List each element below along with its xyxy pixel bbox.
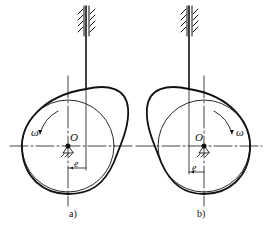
cam-diagram (0, 0, 268, 228)
center-label-b: O (195, 131, 203, 143)
omega-label-a: ω (31, 126, 39, 138)
offset-label-b: e (192, 162, 196, 173)
omega-arrow-b (214, 111, 232, 134)
caption-a: a) (69, 208, 77, 219)
panel-b (136, 6, 262, 206)
center-label-a: O (70, 131, 78, 143)
omega-label-b: ω (236, 126, 244, 138)
omega-arrow-a (40, 111, 58, 134)
caption-b: b) (197, 208, 205, 219)
offset-label-a: e (74, 158, 78, 169)
panel-a (10, 6, 132, 206)
